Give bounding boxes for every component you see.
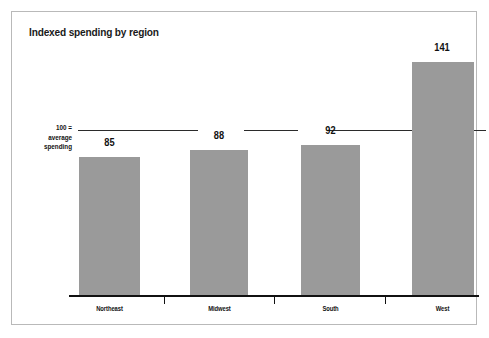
- bar-value-northeast: 85: [84, 136, 135, 148]
- bar-value-south: 92: [306, 124, 356, 136]
- reference-line-caption: 100 = average spending: [25, 123, 72, 152]
- reference-caption-line-1: 100 =: [25, 123, 72, 133]
- bar-west: [412, 62, 474, 295]
- reference-caption-line-3: spending: [25, 142, 72, 152]
- bar-midwest: [190, 150, 248, 295]
- bar-northeast: [79, 157, 140, 295]
- bar-value-midwest: 88: [195, 129, 244, 141]
- x-axis-tick-3: [385, 297, 386, 304]
- x-axis-label-south: South: [299, 305, 363, 312]
- x-axis-label-west: West: [411, 305, 475, 312]
- reference-caption-line-2: average: [25, 133, 72, 143]
- reference-line-segment-1: [78, 130, 198, 131]
- reference-line-segment-4: [474, 130, 486, 131]
- bar-value-west: 141: [416, 41, 468, 53]
- x-axis-label-midwest: Midwest: [188, 305, 252, 312]
- plot-area: 100 = average spending 85 88 92 141 Nort…: [12, 12, 476, 324]
- chart-frame: Indexed spending by region 100 = average…: [11, 11, 477, 325]
- x-axis-tick-1: [164, 297, 165, 304]
- x-axis-label-northeast: Northeast: [78, 305, 142, 312]
- bar-south: [301, 145, 360, 295]
- reference-line-segment-2: [244, 130, 298, 131]
- x-axis-tick-2: [274, 297, 275, 304]
